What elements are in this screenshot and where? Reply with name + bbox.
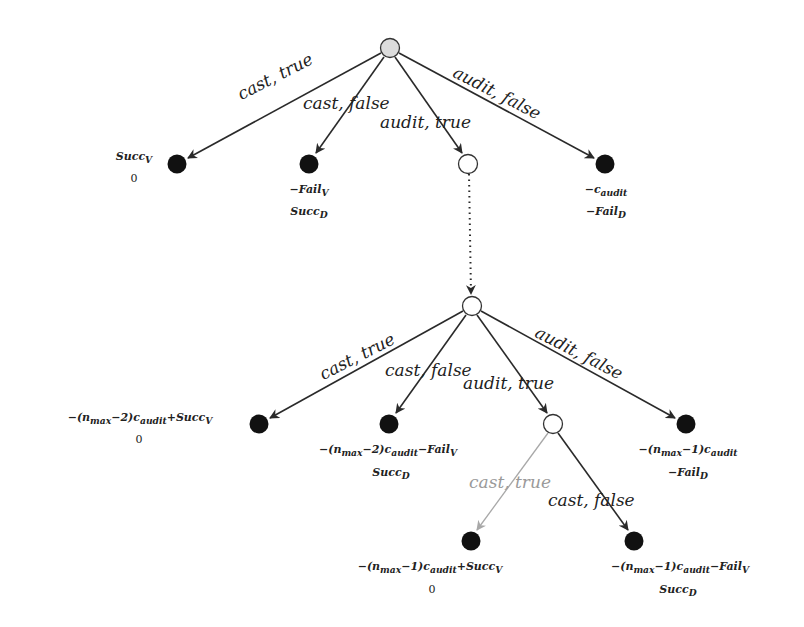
- node-leaf: [596, 155, 615, 174]
- payoff-v: −caudit: [585, 183, 628, 198]
- payoff-v: −(nmax−2)caudit+SuccV: [68, 411, 213, 426]
- payoff-v: −(nmax−1)caudit: [639, 443, 738, 458]
- payoff-d: SuccD: [659, 583, 696, 598]
- edge-label-cast-false: cast, false: [548, 490, 635, 510]
- node-leaf: [625, 532, 644, 551]
- node-leaf: [250, 415, 269, 434]
- node-leaf: [380, 415, 399, 434]
- edge-label-cast-false: cast, false: [385, 360, 472, 380]
- payoff-d: SuccD: [372, 466, 409, 481]
- payoff-v: −FailV: [289, 183, 328, 198]
- node-leaf: [462, 532, 481, 551]
- payoff-v: SuccV: [116, 150, 152, 165]
- payoff-d: 0: [429, 583, 436, 596]
- node-leaf: [300, 155, 319, 174]
- edge-dotted-repeat: [469, 174, 471, 294]
- node-leaf: [168, 155, 187, 174]
- tree-edges: [0, 0, 804, 627]
- edge-label-cast-true-muted: cast, true: [469, 472, 551, 492]
- payoff-d: SuccD: [290, 205, 327, 220]
- edge-label-audit-true: audit, true: [463, 373, 554, 393]
- payoff-d: 0: [136, 433, 143, 446]
- node-root: [381, 39, 400, 58]
- payoff-v: −(nmax−1)caudit+SuccV: [358, 560, 503, 575]
- payoff-d: 0: [131, 172, 138, 185]
- payoff-d: −FailD: [586, 205, 626, 220]
- edge-label-cast-false: cast, false: [303, 93, 390, 113]
- node-decision: [463, 297, 482, 316]
- node-decision: [544, 415, 563, 434]
- payoff-d: −FailD: [668, 466, 708, 481]
- edge-root-audit-true: [395, 57, 462, 153]
- game-tree-diagram: cast, true cast, false audit, true audit…: [0, 0, 804, 627]
- payoff-v: −(nmax−1)caudit−FailV: [611, 560, 749, 575]
- payoff-v: −(nmax−2)caudit−FailV: [319, 443, 457, 458]
- node-leaf: [677, 415, 696, 434]
- node-decision: [459, 155, 478, 174]
- edge-l3-cast-false: [558, 433, 628, 530]
- edge-l2-audit-false: [481, 311, 675, 418]
- edge-label-audit-true: audit, true: [380, 112, 471, 132]
